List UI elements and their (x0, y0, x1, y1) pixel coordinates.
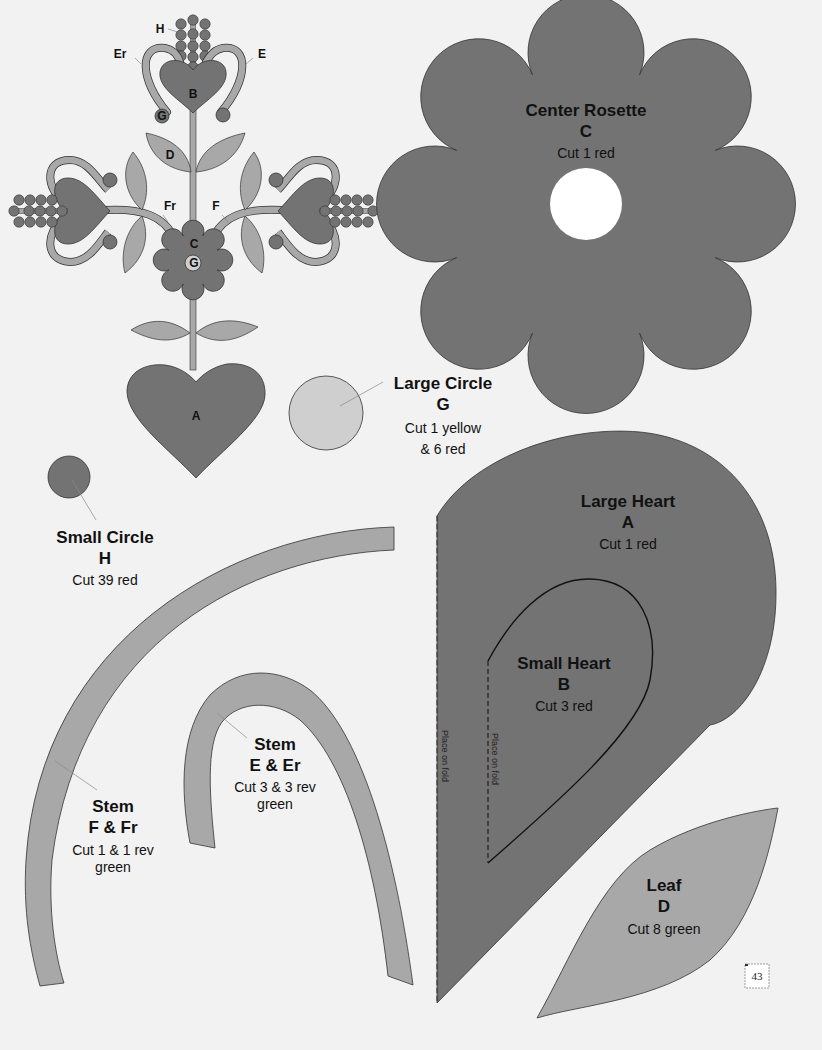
stem-e-er-letter: E & Er (249, 756, 300, 775)
leaf-d-mini-lower-right (196, 321, 258, 341)
small-heart-letter: B (558, 675, 570, 694)
label-e-mini: E (258, 47, 266, 61)
small-circle-shape (48, 456, 90, 498)
leaf-title: Leaf (647, 876, 682, 895)
pattern-page: H Er E B G D Fr F C G A Center Rosette C… (0, 0, 822, 1050)
small-heart-cut: Cut 3 red (535, 698, 593, 714)
large-circle-title: Large Circle (394, 374, 492, 393)
label-a-mini: A (192, 409, 201, 423)
large-circle-cut-1: Cut 1 yellow (405, 420, 482, 436)
circle-g-top-right (216, 108, 230, 122)
large-circle-letter: G (436, 395, 449, 414)
label-er-mini: Er (114, 47, 127, 61)
stem-e-er-piece: Stem E & Er Cut 3 & 3 rev green (184, 673, 413, 985)
large-heart-cut: Cut 1 red (599, 536, 657, 552)
stem-e-er-cut-1: Cut 3 & 3 rev (234, 779, 316, 795)
label-b-mini: B (189, 87, 198, 101)
label-g-center-mini: G (189, 256, 198, 270)
rosette-cut: Cut 1 red (557, 145, 615, 161)
small-heart-fold-label: Place on fold (490, 733, 500, 785)
large-heart-fold-label: Place on fold (440, 730, 450, 782)
label-f-mini: F (212, 199, 219, 213)
stem-f-fr-cut-2: green (95, 859, 131, 875)
large-heart-title: Large Heart (581, 492, 676, 511)
stem-f-fr-cut-1: Cut 1 & 1 rev (72, 842, 154, 858)
label-h-mini: H (156, 22, 165, 36)
small-circle-piece: Small Circle H Cut 39 red (48, 456, 154, 588)
rosette-letter: C (580, 122, 592, 141)
stem-e-er-title: Stem (254, 735, 296, 754)
large-heart-letter: A (622, 513, 634, 532)
small-circle-letter: H (99, 549, 111, 568)
leaf-d-mini (196, 133, 245, 172)
large-circle-piece: Large Circle G Cut 1 yellow & 6 red (289, 374, 492, 457)
small-circle-title: Small Circle (56, 528, 153, 547)
stem-e-er-shape (184, 673, 413, 985)
leaf-d-mini-lower-left (131, 321, 190, 340)
stem-f-fr-title: Stem (92, 797, 134, 816)
label-fr-mini: Fr (164, 199, 176, 213)
small-circle-cut: Cut 39 red (72, 572, 137, 588)
label-c-mini: C (190, 237, 199, 251)
leaf-cut: Cut 8 green (627, 921, 700, 937)
stem-e-er-cut-2: green (257, 796, 293, 812)
stem-f-fr-letter: F & Fr (88, 818, 137, 837)
center-rosette-piece: Center Rosette C Cut 1 red (377, 0, 796, 413)
rosette-center-hole (550, 168, 622, 240)
label-g-top-mini: G (157, 109, 166, 123)
page-number: 43 (752, 970, 764, 982)
large-circle-shape (289, 376, 363, 450)
large-circle-cut-2: & 6 red (420, 441, 465, 457)
page-number-box: 43 (745, 964, 769, 988)
label-d-mini: D (166, 148, 175, 162)
leaf-letter: D (658, 897, 670, 916)
rosette-title: Center Rosette (526, 101, 647, 120)
small-heart-title: Small Heart (517, 654, 611, 673)
